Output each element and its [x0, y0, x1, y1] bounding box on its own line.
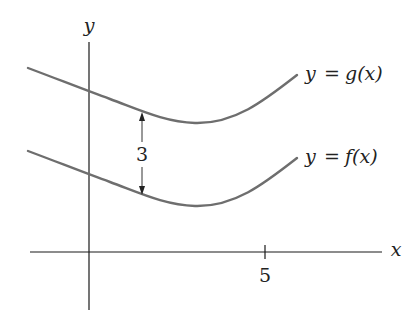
- label-f-lhs: y: [304, 145, 316, 167]
- label-g-lhs: y: [304, 62, 316, 84]
- curve-f: [28, 151, 297, 206]
- gap-label: 3: [136, 143, 148, 165]
- label-g: y = g(x): [304, 62, 383, 84]
- label-f-rhs: f(x): [343, 145, 378, 167]
- diagram-figure: y x 5 3 y = g(x) y = f(x): [0, 0, 417, 315]
- curve-g: [28, 68, 297, 123]
- label-f: y = f(x): [304, 145, 378, 167]
- label-g-eq: =: [324, 62, 340, 84]
- x-tick-label-5: 5: [259, 264, 271, 286]
- y-axis-label: y: [83, 14, 95, 36]
- diagram-canvas: y x 5 3 y = g(x) y = f(x): [0, 0, 417, 315]
- arrowhead-up-icon: [139, 112, 145, 121]
- label-g-rhs: g(x): [345, 62, 383, 84]
- x-axis-label: x: [391, 238, 402, 260]
- label-f-eq: =: [324, 145, 340, 167]
